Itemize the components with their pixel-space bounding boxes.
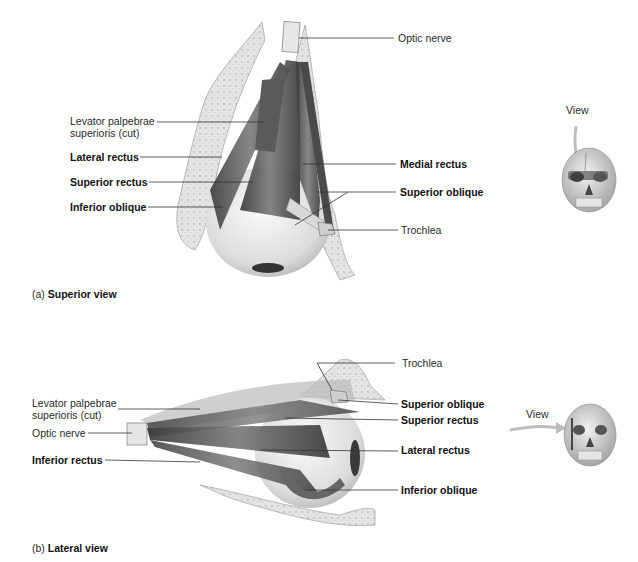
label-levator-palpebrae-b: Levator palpebrae superioris (cut) bbox=[32, 397, 117, 421]
label-superior-oblique-b: Superior oblique bbox=[401, 398, 484, 410]
label-medial-rectus-a: Medial rectus bbox=[400, 158, 467, 170]
label-trochlea-a: Trochlea bbox=[401, 224, 441, 236]
caption-title-b: Lateral view bbox=[48, 542, 108, 554]
caption-title-a: Superior view bbox=[48, 288, 117, 300]
label-trochlea-b: Trochlea bbox=[402, 357, 442, 369]
label-superior-rectus-b: Superior rectus bbox=[401, 414, 479, 426]
label-inferior-oblique-b: Inferior oblique bbox=[401, 484, 477, 496]
label-levator-line2: superioris (cut) bbox=[32, 409, 117, 421]
lateral-view-illustration bbox=[127, 359, 385, 525]
label-levator-line1: Levator palpebrae bbox=[70, 115, 155, 127]
label-lateral-rectus-b: Lateral rectus bbox=[401, 444, 470, 456]
caption-lateral-view: (b) Lateral view bbox=[32, 542, 108, 554]
label-inferior-oblique-a: Inferior oblique bbox=[70, 201, 146, 213]
caption-superior-view: (a) Superior view bbox=[32, 288, 117, 300]
label-levator-line2: superioris (cut) bbox=[70, 127, 155, 139]
label-optic-nerve-a: Optic nerve bbox=[398, 32, 452, 44]
anatomy-illustration bbox=[0, 0, 638, 562]
label-view-a: View bbox=[566, 104, 589, 116]
label-view-b: View bbox=[526, 408, 549, 420]
caption-prefix-a: (a) bbox=[32, 288, 45, 300]
superior-view-illustration bbox=[177, 21, 355, 280]
label-levator-line1: Levator palpebrae bbox=[32, 397, 117, 409]
caption-prefix-b: (b) bbox=[32, 542, 45, 554]
label-lateral-rectus-a: Lateral rectus bbox=[70, 151, 139, 163]
label-inferior-rectus-b: Inferior rectus bbox=[32, 454, 103, 466]
label-levator-palpebrae-a: Levator palpebrae superioris (cut) bbox=[70, 115, 155, 139]
label-superior-oblique-a: Superior oblique bbox=[400, 186, 483, 198]
label-superior-rectus-a: Superior rectus bbox=[70, 176, 148, 188]
label-optic-nerve-b: Optic nerve bbox=[32, 427, 86, 439]
skull-superior-orientation-icon bbox=[562, 126, 616, 212]
